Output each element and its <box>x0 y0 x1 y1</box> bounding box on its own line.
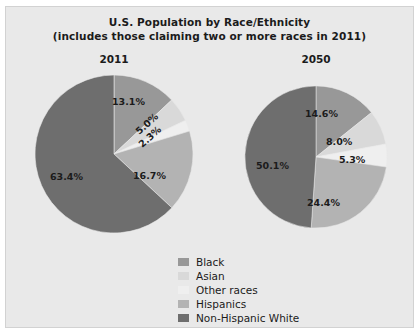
pie-2050-label-hispanics: 24.4% <box>307 197 340 208</box>
legend-label-hispanics: Hispanics <box>196 297 246 311</box>
legend-swatch-black <box>178 258 189 266</box>
pie-2011-label-hispanics: 16.7% <box>133 170 166 181</box>
pie-2050-label-non-hispanic-white: 50.1% <box>256 160 289 171</box>
pie-2050-label-other-races: 5.3% <box>339 154 365 165</box>
legend-label-non-hispanic-white: Non-Hispanic White <box>196 311 299 325</box>
legend-item-hispanics: Hispanics <box>178 297 299 311</box>
chart-figure: U.S. Population by Race/Ethnicity (inclu… <box>5 6 414 328</box>
chart-title-line-2: (includes those claiming two or more rac… <box>6 29 413 43</box>
chart-title-line-1: U.S. Population by Race/Ethnicity <box>6 15 413 29</box>
pie-2011-label-non-hispanic-white: 63.4% <box>50 171 83 182</box>
legend-item-black: Black <box>178 255 299 269</box>
legend-label-other-races: Other races <box>196 283 258 297</box>
pie-caption-2050: 2050 <box>268 53 364 65</box>
chart-title: U.S. Population by Race/Ethnicity (inclu… <box>6 15 413 43</box>
legend-item-non-hispanic-white: Non-Hispanic White <box>178 311 299 325</box>
pie-2050-label-black: 14.6% <box>305 108 338 119</box>
pie-slice-hispanics <box>311 157 386 228</box>
legend-swatch-other-races <box>178 286 189 294</box>
pie-caption-2011: 2011 <box>66 53 162 65</box>
chart-legend: BlackAsianOther racesHispanicsNon-Hispan… <box>178 255 299 325</box>
legend-label-black: Black <box>196 255 224 269</box>
pie-2050-label-asian: 8.0% <box>326 136 352 147</box>
legend-swatch-hispanics <box>178 300 189 308</box>
legend-item-other-races: Other races <box>178 283 299 297</box>
pie-2011-label-black: 13.1% <box>112 96 145 107</box>
legend-swatch-asian <box>178 272 189 280</box>
legend-item-asian: Asian <box>178 269 299 283</box>
legend-swatch-non-hispanic-white <box>178 314 189 322</box>
legend-label-asian: Asian <box>196 269 225 283</box>
